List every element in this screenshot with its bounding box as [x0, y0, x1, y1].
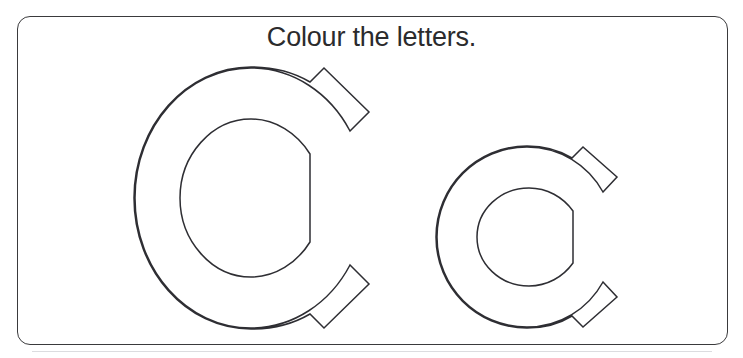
bottom-separator	[32, 351, 712, 352]
activity-card	[17, 16, 728, 345]
worksheet-page: Colour the letters.	[0, 0, 743, 358]
instruction-title: Colour the letters.	[0, 22, 743, 53]
